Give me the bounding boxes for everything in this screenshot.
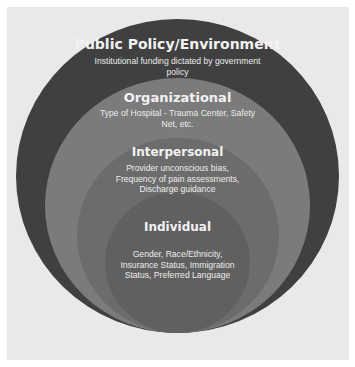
interpersonal-desc-line: Frequency of pain assessments,	[0, 174, 355, 185]
individual-desc-line: Insurance Status, Immigration	[0, 260, 355, 271]
interpersonal-title: Interpersonal	[0, 145, 355, 159]
public-policy-desc-line: Institutional funding dictated by govern…	[0, 56, 355, 67]
organizational-desc-line: Net, etc.	[0, 119, 355, 130]
organizational-description: Type of Hospital - Trauma Center, Safety…	[0, 108, 355, 129]
individual-desc-line: Gender, Race/Ethnicity,	[0, 249, 355, 260]
interpersonal-description: Provider unconscious bias, Frequency of …	[0, 163, 355, 195]
interpersonal-desc-line: Provider unconscious bias,	[0, 163, 355, 174]
public-policy-desc-line: policy	[0, 67, 355, 78]
public-policy-title: Public Policy/Environment	[0, 36, 355, 52]
organizational-desc-line: Type of Hospital - Trauma Center, Safety	[0, 108, 355, 119]
interpersonal-desc-line: Discharge guidance	[0, 184, 355, 195]
organizational-title: Organizational	[0, 90, 355, 105]
individual-description: Gender, Race/Ethnicity, Insurance Status…	[0, 249, 355, 281]
public-policy-description: Institutional funding dictated by govern…	[0, 56, 355, 77]
individual-title: Individual	[0, 220, 355, 234]
individual-desc-line: Status, Preferred Language	[0, 270, 355, 281]
